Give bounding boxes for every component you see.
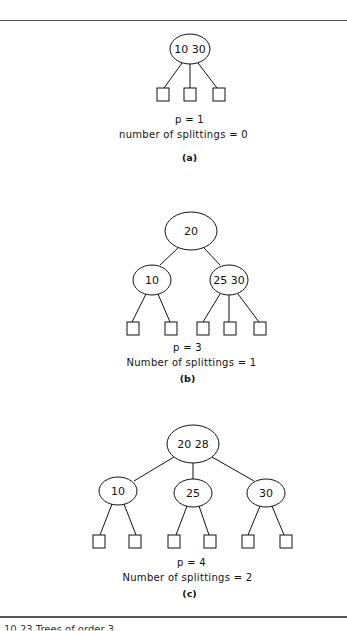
leaf-node (213, 88, 225, 101)
leaf-node (129, 535, 141, 548)
splittings-label-b: Number of splittings = 1 (18, 357, 347, 368)
node-c-root-keys: 20 28 (177, 438, 209, 451)
leaf-node (197, 322, 209, 335)
leaf-node (157, 88, 169, 101)
node-c-mid-keys: 25 (186, 487, 200, 500)
figure-caption: 10.23 Trees of order 3 (4, 624, 114, 631)
p-label-b: p = 3 (14, 342, 347, 353)
leaf-node (280, 535, 292, 548)
node-c-left-keys: 10 (111, 485, 125, 498)
node-c-right-keys: 30 (259, 487, 273, 500)
leaf-node (127, 322, 139, 335)
leaf-node (184, 88, 196, 101)
leaf-node (254, 322, 266, 335)
splittings-label-a: number of splittings = 0 (10, 129, 347, 140)
p-label-c: p = 4 (18, 557, 347, 568)
leaf-node (165, 322, 177, 335)
node-b-left-keys: 10 (145, 274, 159, 287)
node-b-right-keys: 25 30 (213, 274, 245, 287)
panel-label-b: (b) (14, 373, 347, 384)
leaf-node (168, 535, 180, 548)
bottom-rule (0, 616, 347, 618)
panel-label-a: (a) (16, 152, 347, 163)
node-a-root-keys: 10 30 (174, 43, 206, 56)
leaf-node (93, 535, 105, 548)
splittings-label-c: Number of splittings = 2 (14, 572, 347, 583)
tree-diagrams: 10 30 20 10 25 30 20 28 10 25 30 (0, 0, 347, 631)
panel-label-c: (c) (16, 588, 347, 599)
leaf-node (242, 535, 254, 548)
leaf-node (204, 535, 216, 548)
p-label-a: p = 1 (16, 114, 347, 125)
node-b-root-keys: 20 (184, 225, 198, 238)
leaf-node (224, 322, 236, 335)
